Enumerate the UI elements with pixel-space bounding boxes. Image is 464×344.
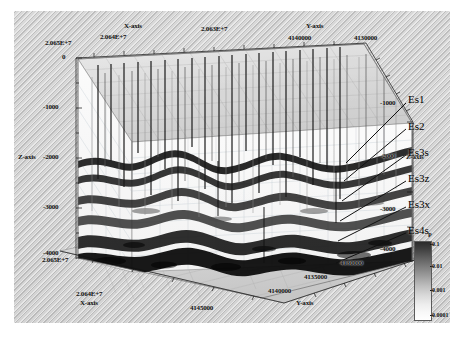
x-axis-title-top: X-axis [124,22,142,30]
colorbar-tick-1: 0.01 [432,263,443,269]
scene-3d: X-axis 2.065E+7 2.064E+7 2.063E+7 Y-axis… [14,11,450,323]
formation-label-es3x: Es3x [408,198,430,210]
y-tick-top-0: 4140000 [288,34,311,42]
block-model-graphic [14,11,450,323]
z-tick-left-1: -1000 [43,103,58,111]
z-tick-left-3: -3000 [43,203,58,211]
y-tick-bottom-1: 4140000 [268,287,291,295]
x-tick-bottom-1: 2.064E+7 [76,290,102,298]
y-tick-top-1: 4130000 [354,34,377,42]
z-tick-left-0: 0 [62,53,65,61]
x-tick-bottom-0: 2.065E+7 [42,256,68,264]
z-tick-right-3: -3000 [380,205,395,213]
colorbar: P 0.1 0.01 0.001 0.0001 [406,233,450,321]
x-tick-top-1: 2.064E+7 [100,33,126,41]
y-tick-bottom-2: 4135000 [304,273,327,281]
y-tick-bottom-0: 4145000 [190,304,213,312]
colorbar-tick-2: 0.001 [432,287,446,293]
x-axis-title-bottom: X-axis [80,299,98,307]
z-tick-right-4: -4000 [380,245,395,253]
colorbar-title: P [428,232,432,238]
y-tick-bottom-3: 4130000 [340,259,363,267]
figure-root: X-axis 2.065E+7 2.064E+7 2.063E+7 Y-axis… [0,0,464,344]
y-axis-title-bottom: Y-axis [296,299,313,307]
formation-label-es3z: Es3z [408,172,429,184]
plot-panel: X-axis 2.065E+7 2.064E+7 2.063E+7 Y-axis… [14,11,450,323]
y-axis-title-top: Y-axis [306,22,323,30]
formation-label-es3s: Es3s [408,146,429,158]
z-tick-left-2: -2000 [43,153,58,161]
colorbar-gradient [414,241,432,321]
z-axis-title-left: Z-axis [18,153,35,161]
formation-label-es1: Es1 [408,93,425,105]
z-tick-right-2: -2000 [380,152,395,160]
formation-label-es2: Es2 [408,120,425,132]
z-tick-right-1: -1000 [380,99,395,107]
colorbar-tick-0: 0.1 [432,241,440,247]
x-tick-top-0: 2.065E+7 [45,39,71,47]
x-tick-top-2: 2.063E+7 [201,25,227,33]
colorbar-tick-3: 0.0001 [432,312,449,318]
